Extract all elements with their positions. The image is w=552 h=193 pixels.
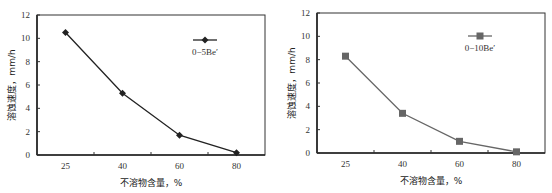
x-axis-label: 不溶物含量，%	[120, 177, 183, 188]
data-point	[456, 138, 463, 145]
x-tick-label: 25	[61, 161, 71, 171]
y-tick-label: 12	[21, 10, 30, 20]
series-line	[346, 56, 517, 152]
x-axis-label: 不溶物含量，%	[400, 175, 463, 186]
chart-1: 02468101225406080不溶物含量，%溶蚀速度，mm/h0−5Be′	[6, 10, 265, 188]
legend: 0−10Be′	[465, 33, 496, 54]
chart-2: 02468101225406080不溶物含量，%溶蚀速度，mm/h0−10Be′	[286, 8, 545, 186]
y-tick-label: 4	[306, 101, 311, 111]
charts-canvas: 02468101225406080不溶物含量，%溶蚀速度，mm/h0−5Be′0…	[0, 0, 552, 193]
y-tick-label: 6	[306, 78, 311, 88]
y-tick-label: 8	[306, 55, 311, 65]
x-tick-label: 60	[175, 161, 185, 171]
y-tick-label: 0	[26, 150, 31, 160]
y-tick-label: 2	[306, 125, 311, 135]
data-point	[342, 53, 349, 60]
legend-marker-icon	[202, 37, 209, 44]
data-point	[513, 148, 520, 155]
y-tick-label: 4	[26, 103, 31, 113]
x-tick-label: 40	[118, 161, 128, 171]
x-tick-label: 80	[512, 159, 522, 169]
x-tick-label: 40	[398, 159, 408, 169]
y-tick-label: 0	[306, 148, 311, 158]
y-tick-label: 8	[26, 57, 31, 67]
y-axis-label: 溶蚀速度，mm/h	[286, 47, 297, 118]
legend-label: 0−5Be′	[192, 47, 218, 57]
x-tick-label: 60	[455, 159, 465, 169]
legend-marker-icon	[477, 33, 484, 40]
y-tick-label: 2	[26, 127, 31, 137]
plot-frame	[317, 13, 545, 153]
y-axis-label: 溶蚀速度，mm/h	[6, 49, 17, 120]
plot-frame	[37, 15, 265, 155]
x-tick-label: 80	[232, 161, 242, 171]
y-tick-label: 6	[26, 80, 31, 90]
data-point	[399, 110, 406, 117]
legend: 0−5Be′	[192, 37, 218, 58]
y-tick-label: 12	[301, 8, 310, 18]
legend-label: 0−10Be′	[465, 43, 496, 53]
y-tick-label: 10	[21, 33, 31, 43]
y-tick-label: 10	[301, 31, 311, 41]
x-tick-label: 25	[341, 159, 351, 169]
